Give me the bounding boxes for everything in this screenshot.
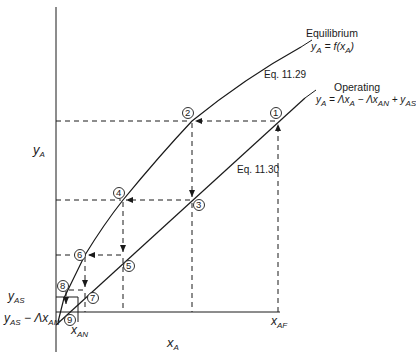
- intercept-label: yAS − ΛxAN: [4, 311, 59, 327]
- equilibrium-curve: [58, 47, 301, 322]
- operating-equation: yA = ΛxA − ΛxAN + yAS: [316, 94, 416, 108]
- y-as-label: yAS: [8, 289, 25, 305]
- equilibrium-title: Equilibrium: [306, 27, 358, 39]
- stage-construction-lines: [56, 121, 278, 312]
- stage-point-8: 8: [60, 280, 65, 291]
- equilibrium-ref: Eq. 11.29: [264, 69, 306, 80]
- stage-point-3: 3: [196, 199, 201, 210]
- stage-point-1: 1: [273, 107, 278, 118]
- x-axis-label: xA: [167, 335, 179, 352]
- stage-point-7: 7: [90, 292, 95, 303]
- stage-point-5: 5: [126, 260, 131, 271]
- equilibrium-equation: yA = f(xA): [311, 40, 354, 55]
- x-af-label: xAF: [271, 314, 287, 330]
- x-an-label: xAN: [71, 323, 88, 339]
- stage-point-2: 2: [185, 107, 190, 118]
- y-axis-label: yA: [33, 142, 45, 159]
- operating-line: [56, 98, 305, 325]
- operating-ref: Eq. 11.30: [237, 164, 279, 175]
- stage-point-4: 4: [116, 187, 121, 198]
- stage-point-6: 6: [77, 249, 82, 260]
- operating-title: Operating: [334, 81, 380, 93]
- operating-leader: [305, 90, 316, 98]
